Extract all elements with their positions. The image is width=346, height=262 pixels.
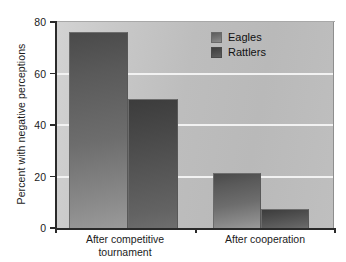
x-axis-category-label: After competitivetournament (60, 233, 190, 258)
y-axis-tick-label: 60 (6, 68, 46, 80)
bar-chart: Percent with negative perceptions 020406… (0, 0, 346, 262)
bar-eagles (213, 173, 261, 228)
y-axis-tick (50, 176, 55, 178)
y-axis-tick (50, 21, 55, 23)
bars-layer (56, 22, 334, 228)
x-axis-category-label: After cooperation (200, 233, 330, 246)
x-axis-tick (195, 228, 197, 233)
bar-rattlers (261, 209, 309, 228)
x-axis-category-line: After cooperation (200, 233, 330, 246)
legend-swatch-icon (211, 32, 222, 43)
x-axis-tick (334, 228, 336, 233)
bar-eagles (69, 32, 128, 228)
legend-swatch-icon (211, 47, 222, 58)
bar-rattlers (128, 99, 178, 228)
legend-label: Eagles (228, 31, 262, 43)
y-axis-tick (50, 73, 55, 75)
x-axis-category-line: tournament (60, 246, 190, 259)
x-axis-category-line: After competitive (60, 233, 190, 246)
legend: EaglesRattlers (211, 30, 266, 60)
y-axis-tick-label: 20 (6, 171, 46, 183)
legend-label: Rattlers (228, 46, 266, 58)
y-axis-tick (50, 124, 55, 126)
legend-item-eagles: Eagles (211, 30, 266, 44)
y-axis-tick-label: 40 (6, 119, 46, 131)
y-axis-tick-label: 80 (6, 16, 46, 28)
x-axis-tick (55, 228, 57, 233)
legend-item-rattlers: Rattlers (211, 45, 266, 59)
y-axis-tick-label: 0 (6, 222, 46, 234)
